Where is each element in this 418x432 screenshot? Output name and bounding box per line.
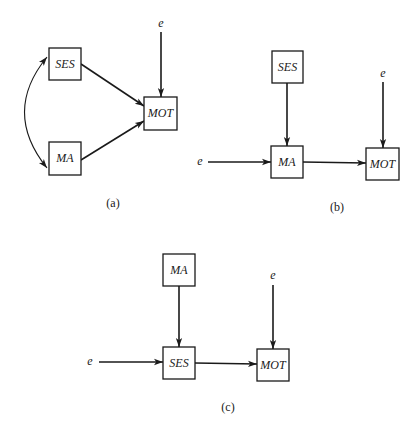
- node-ses: SES: [272, 51, 303, 83]
- error-term-label-mot: e: [270, 268, 276, 282]
- arrow-ma-to-mot: [303, 162, 366, 163]
- panel-caption: (b): [330, 200, 344, 214]
- node-ma: MA: [163, 254, 195, 286]
- node-label: MA: [55, 151, 74, 165]
- node-label: MA: [277, 155, 296, 169]
- arrow-ses-to-mot: [195, 363, 257, 364]
- node-mot: MOT: [366, 148, 399, 180]
- node-label: MOT: [147, 106, 175, 120]
- node-ses: SES: [163, 347, 195, 379]
- error-term-label: e: [158, 16, 164, 30]
- node-ma: MA: [271, 146, 303, 178]
- arrow-ses-to-mot: [81, 64, 144, 106]
- error-term-label-ma: e: [197, 154, 203, 168]
- panel-a: SES MA MOT e (a): [25, 16, 178, 210]
- panel-caption: (a): [106, 196, 119, 210]
- panel-c: MA SES MOT e e (c): [87, 254, 289, 414]
- node-mot: MOT: [257, 349, 289, 381]
- node-label: SES: [169, 356, 188, 370]
- arrow-ma-to-mot: [81, 121, 144, 160]
- error-term-label-mot: e: [380, 66, 386, 80]
- panel-caption: (c): [221, 400, 234, 414]
- node-label: SES: [55, 57, 74, 71]
- node-mot: MOT: [144, 97, 177, 130]
- node-label: MOT: [259, 358, 287, 372]
- node-label: SES: [278, 60, 297, 74]
- node-label: MA: [169, 263, 188, 277]
- error-term-label-ses: e: [87, 354, 93, 368]
- correlation-arrow-ses-ma: [25, 57, 48, 168]
- node-label: MOT: [369, 157, 397, 171]
- node-ses: SES: [49, 48, 81, 80]
- node-ma: MA: [49, 142, 81, 175]
- panel-b: SES MA MOT e e (b): [197, 51, 399, 214]
- path-diagrams: SES MA MOT e (a) SES MA MOT e e: [0, 0, 418, 432]
